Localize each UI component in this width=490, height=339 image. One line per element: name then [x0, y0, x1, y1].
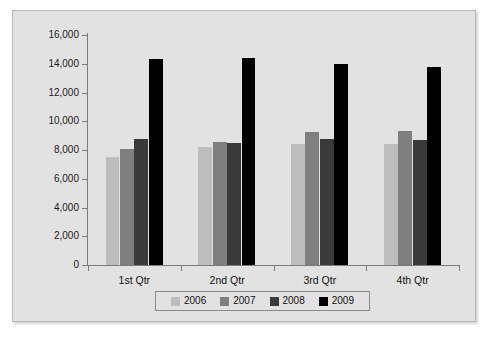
value-axis-tick: [82, 265, 87, 266]
category-label-1: 1st Qtr: [89, 274, 179, 286]
legend-label-2009: 2009: [332, 296, 354, 306]
bar-2006-2nd-qtr[interactable]: [198, 147, 212, 265]
bar-2009-1st-qtr[interactable]: [149, 59, 163, 265]
category-axis-tick: [459, 265, 460, 271]
bar-2009-3rd-qtr[interactable]: [334, 64, 348, 265]
category-axis-tick: [366, 265, 367, 271]
chart-plot-area: 02,0004,0006,0008,00010,00012,00014,0001…: [13, 11, 477, 323]
value-axis-tick: [82, 236, 87, 237]
legend-swatch-icon-2009: [319, 297, 328, 306]
bar-2007-3rd-qtr[interactable]: [305, 132, 319, 265]
bar-2009-2nd-qtr[interactable]: [242, 58, 256, 265]
legend-entry-2006[interactable]: 2006: [171, 296, 206, 306]
bar-2006-4th-qtr[interactable]: [384, 144, 398, 265]
value-axis-tick-label: 4,000: [19, 203, 79, 213]
legend-swatch-icon-2007: [220, 297, 229, 306]
legend-entry-2007[interactable]: 2007: [220, 296, 255, 306]
chart-object-frame[interactable]: 02,0004,0006,0008,00010,00012,00014,0001…: [12, 10, 476, 322]
value-axis-tick: [82, 150, 87, 151]
category-label-2: 2nd Qtr: [182, 274, 272, 286]
category-axis-tick: [88, 265, 89, 271]
cut-off-header-text: [0, 0, 490, 8]
legend-label-2006: 2006: [184, 296, 206, 306]
legend-label-2008: 2008: [283, 296, 305, 306]
value-axis-tick: [82, 121, 87, 122]
value-axis-tick-label: 2,000: [19, 231, 79, 241]
bar-2008-3rd-qtr[interactable]: [320, 139, 334, 266]
value-axis-tick-label: 8,000: [19, 145, 79, 155]
legend-swatch-icon-2006: [171, 297, 180, 306]
bar-2007-1st-qtr[interactable]: [120, 149, 134, 265]
value-axis-tick: [82, 208, 87, 209]
category-label-3: 3rd Qtr: [275, 274, 365, 286]
value-axis-line: [87, 33, 88, 266]
bar-2008-2nd-qtr[interactable]: [227, 143, 241, 265]
bar-2007-2nd-qtr[interactable]: [213, 142, 227, 265]
chart-legend[interactable]: 2006200720082009: [155, 291, 370, 311]
bar-2009-4th-qtr[interactable]: [427, 67, 441, 265]
category-axis-line: [87, 265, 459, 266]
category-axis-tick: [181, 265, 182, 271]
value-axis-tick: [82, 64, 87, 65]
value-axis-tick-label: 16,000: [19, 30, 79, 40]
value-axis-tick: [82, 179, 87, 180]
bar-2008-1st-qtr[interactable]: [134, 139, 148, 266]
value-axis-tick-label: 0: [19, 260, 79, 270]
bar-2008-4th-qtr[interactable]: [413, 140, 427, 265]
bar-2006-1st-qtr[interactable]: [106, 157, 120, 265]
legend-swatch-icon-2008: [270, 297, 279, 306]
value-axis-tick-label: 6,000: [19, 174, 79, 184]
value-axis-tick: [82, 35, 87, 36]
legend-entry-2008[interactable]: 2008: [270, 296, 305, 306]
value-axis-tick: [82, 93, 87, 94]
legend-entry-2009[interactable]: 2009: [319, 296, 354, 306]
category-label-4: 4th Qtr: [368, 274, 458, 286]
scanned-page: 02,0004,0006,0008,00010,00012,00014,0001…: [0, 0, 490, 339]
bar-2007-4th-qtr[interactable]: [398, 131, 412, 265]
value-axis-tick-label: 12,000: [19, 88, 79, 98]
legend-label-2007: 2007: [233, 296, 255, 306]
value-axis-tick-label: 10,000: [19, 116, 79, 126]
category-axis-tick: [274, 265, 275, 271]
value-axis-tick-label: 14,000: [19, 59, 79, 69]
bar-2006-3rd-qtr[interactable]: [291, 144, 305, 265]
